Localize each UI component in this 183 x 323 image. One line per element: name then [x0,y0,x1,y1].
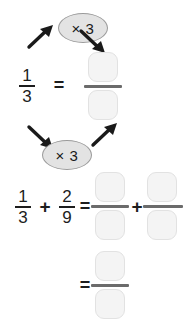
arrow-up-right-icon-denominator-out [90,122,120,148]
arrow-up-right-icon-numerator-in [26,24,56,50]
sum-answer-plus-sign: + [130,199,144,213]
sum-answer-second-denominator-box[interactable] [147,210,177,240]
equivalence-answer-denominator-box[interactable] [88,90,118,120]
equivalence-answer-numerator-box[interactable] [88,52,118,82]
sum-answer-second-numerator-box[interactable] [147,172,177,202]
equivalence-source-numerator: 1 [22,68,31,83]
sum-answer-first-denominator-box[interactable] [95,210,125,240]
arrow-down-right-icon-numerator-out [78,28,108,54]
result-answer-denominator-box[interactable] [95,289,125,319]
sum-first-fraction: 1 3 [12,189,34,225]
sum-answer-second-fraction-bar [143,205,183,208]
sum-plus-sign: + [38,199,52,213]
equivalence-source-fraction: 1 3 [16,68,38,104]
worksheet-canvas: × 3 1 3 = × 3 [0,0,183,323]
sum-first-numerator: 1 [18,189,27,204]
equivalence-answer-fraction-bar [84,85,122,88]
sum-equals-sign: = [78,199,92,213]
sum-first-denominator: 3 [18,210,27,225]
sum-second-numerator: 2 [62,189,71,204]
equivalence-source-denominator: 3 [22,89,31,104]
multiplier-oval-denominator[interactable]: × 3 [42,140,92,170]
equivalence-equals-sign: = [52,78,66,92]
sum-second-denominator: 9 [62,210,71,225]
result-answer-numerator-box[interactable] [95,251,125,281]
sum-second-fraction: 2 9 [56,189,78,225]
sum-answer-first-numerator-box[interactable] [95,172,125,202]
result-equals-sign: = [78,278,92,292]
result-answer-fraction-bar [91,284,129,287]
sum-answer-first-fraction-bar [91,205,129,208]
multiplier-oval-denominator-label: × 3 [56,147,79,164]
